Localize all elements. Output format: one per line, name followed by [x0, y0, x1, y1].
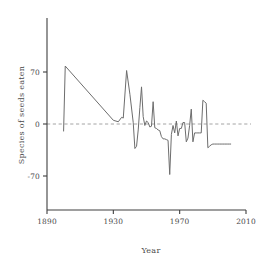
chart-figure: 700-70 1890193019702010 Year Species of …	[0, 0, 274, 270]
y-tick-label: 70	[30, 68, 40, 77]
line-chart: 700-70 1890193019702010 Year Species of …	[0, 0, 274, 270]
x-axis-title: Year	[140, 246, 160, 255]
x-tick-label: 1970	[170, 217, 190, 226]
x-tick-label: 1890	[37, 217, 57, 226]
y-tick-label: -70	[27, 172, 40, 181]
x-axis-ticks: 1890193019702010	[37, 210, 256, 226]
x-tick-label: 2010	[236, 217, 256, 226]
x-tick-label: 1930	[104, 217, 124, 226]
data-series-line	[64, 66, 232, 174]
y-axis-ticks: 700-70	[27, 68, 47, 181]
y-tick-label: 0	[35, 120, 40, 129]
y-axis-title: Species of seeds eaten	[17, 66, 26, 165]
